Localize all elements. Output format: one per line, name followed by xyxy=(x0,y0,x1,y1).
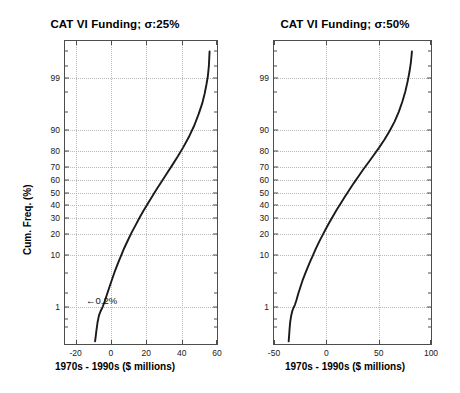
y-tick-label: 20 xyxy=(260,229,269,239)
y-tick-label: 70 xyxy=(51,162,60,172)
y-tick-label: 1 xyxy=(264,302,269,312)
plot-panel-left: CAT VI Funding; σ:25% 110203040506070809… xyxy=(0,0,230,393)
x-axis-label-left: 1970s - 1990s ($ millions) xyxy=(0,361,230,372)
y-tick-label: 10 xyxy=(51,250,60,260)
y-tick-label: 1 xyxy=(55,302,60,312)
x-axis-label-right: 1970s - 1990s ($ millions) xyxy=(230,361,460,372)
x-tick-label: 0 xyxy=(324,348,329,358)
y-tick-label: 30 xyxy=(51,213,60,223)
x-tick-label: 100 xyxy=(424,348,438,358)
y-tick-label: 40 xyxy=(260,200,269,210)
panel-title-right: CAT VI Funding; σ:50% xyxy=(230,18,460,30)
y-tick-label: 30 xyxy=(260,213,269,223)
annotation-left: ←0.2% xyxy=(86,295,117,306)
y-tick-label: 99 xyxy=(51,73,60,83)
data-curve xyxy=(274,41,431,344)
y-tick-label: 60 xyxy=(51,175,60,185)
y-tick-label: 80 xyxy=(260,146,269,156)
x-tick-label: 40 xyxy=(177,348,186,358)
x-tick-label: 20 xyxy=(142,348,151,358)
y-tick-label: 70 xyxy=(260,162,269,172)
y-tick-label: 40 xyxy=(51,200,60,210)
x-tick-label: 60 xyxy=(212,348,221,358)
y-tick-label: 60 xyxy=(260,175,269,185)
x-tick-label: 50 xyxy=(374,348,383,358)
x-tick-label: -50 xyxy=(268,348,280,358)
y-tick-label: 20 xyxy=(51,229,60,239)
plot-area-right: 110203040506070809099-50050100 xyxy=(273,40,432,345)
y-tick-label: 10 xyxy=(260,250,269,260)
y-tick-label: 90 xyxy=(51,125,60,135)
y-tick-label: 80 xyxy=(51,146,60,156)
y-tick-label: 90 xyxy=(260,125,269,135)
panel-title-left: CAT VI Funding; σ:25% xyxy=(0,18,230,30)
x-tick-label: 0 xyxy=(109,348,114,358)
figure-canvas: CAT VI Funding; σ:25% 110203040506070809… xyxy=(0,0,460,393)
y-tick-label: 99 xyxy=(260,73,269,83)
plot-panel-right: CAT VI Funding; σ:50% 110203040506070809… xyxy=(230,0,460,393)
y-tick-label: 50 xyxy=(51,188,60,198)
y-tick-label: 50 xyxy=(260,188,269,198)
y-axis-label-left: Cum. Freq. (%) xyxy=(22,184,33,255)
cumulative-frequency-line xyxy=(289,51,412,341)
x-tick-label: -20 xyxy=(69,348,81,358)
